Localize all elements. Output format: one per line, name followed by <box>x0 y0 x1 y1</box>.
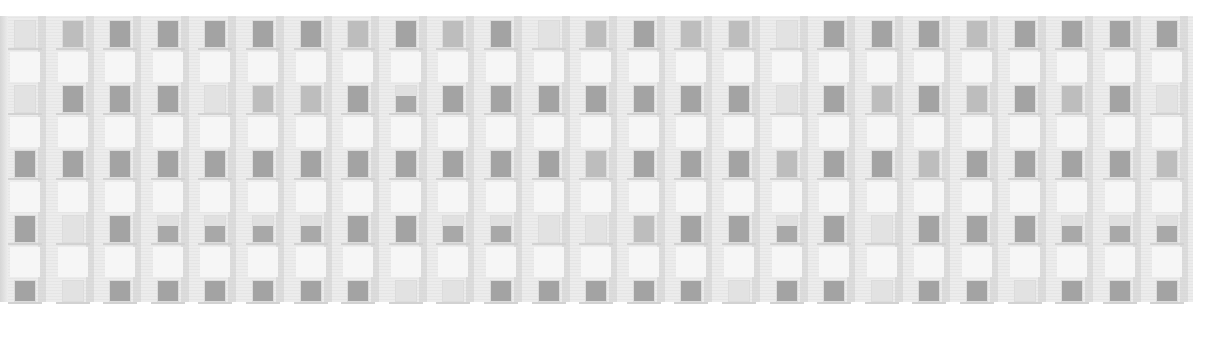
window <box>157 215 179 243</box>
window-sill <box>389 243 423 245</box>
wall-spandrel <box>1057 52 1087 82</box>
window-sill <box>722 48 756 50</box>
window <box>1156 280 1178 302</box>
wall-spandrel <box>629 117 659 147</box>
wall-spandrel <box>914 52 944 82</box>
window-sill <box>865 243 899 245</box>
window <box>1109 150 1131 178</box>
wall-spandrel <box>914 247 944 277</box>
wall-spandrel <box>1057 247 1087 277</box>
window <box>823 150 845 178</box>
window-sill <box>341 302 375 304</box>
window-sill <box>436 243 470 245</box>
window-sill <box>103 178 137 180</box>
window <box>14 20 36 48</box>
window <box>680 20 702 48</box>
window-sill <box>1008 48 1042 50</box>
wall-spandrel <box>962 182 992 212</box>
window-sill <box>56 243 90 245</box>
wall-spandrel <box>105 117 135 147</box>
window <box>1061 85 1083 113</box>
window <box>585 280 607 302</box>
window <box>347 85 369 113</box>
window <box>62 280 84 302</box>
window <box>871 280 893 302</box>
wall-spandrel <box>914 182 944 212</box>
window-sill <box>198 48 232 50</box>
window-sill <box>246 48 280 50</box>
window-sill <box>198 302 232 304</box>
wall-spandrel <box>248 117 278 147</box>
wall-spandrel <box>914 117 944 147</box>
window-sill <box>151 48 185 50</box>
window <box>966 280 988 302</box>
window <box>918 280 940 302</box>
window-sill <box>1055 178 1089 180</box>
window <box>966 215 988 243</box>
window-sill <box>722 113 756 115</box>
window-sill <box>674 178 708 180</box>
window <box>300 150 322 178</box>
window <box>633 280 655 302</box>
window-sill <box>198 178 232 180</box>
wall-spandrel <box>581 117 611 147</box>
window-sill <box>627 178 661 180</box>
window <box>62 20 84 48</box>
window-sill <box>8 48 42 50</box>
window-sill <box>960 302 994 304</box>
window-sill <box>1103 302 1137 304</box>
wall-spandrel <box>676 247 706 277</box>
window-sill <box>1008 302 1042 304</box>
window-sill <box>1103 243 1137 245</box>
window <box>252 20 274 48</box>
wall-spandrel <box>153 117 183 147</box>
window-sill <box>579 302 613 304</box>
window-sill <box>674 243 708 245</box>
window-sill <box>960 48 994 50</box>
window <box>680 85 702 113</box>
window-sill <box>8 302 42 304</box>
wall-spandrel <box>486 182 516 212</box>
window <box>157 150 179 178</box>
window <box>1109 20 1131 48</box>
wall-spandrel <box>534 117 564 147</box>
wall-spandrel <box>1010 52 1040 82</box>
window <box>680 150 702 178</box>
wall-spandrel <box>296 247 326 277</box>
window-sill <box>1055 243 1089 245</box>
wall-spandrel <box>10 182 40 212</box>
window <box>252 280 274 302</box>
window-sill <box>484 178 518 180</box>
wall-spandrel <box>438 182 468 212</box>
window-sill <box>1103 48 1137 50</box>
window <box>395 215 417 243</box>
window <box>252 215 274 243</box>
window <box>157 20 179 48</box>
window-sill <box>1103 178 1137 180</box>
window <box>918 85 940 113</box>
wall-spandrel <box>248 182 278 212</box>
wall-spandrel <box>10 52 40 82</box>
wall-spandrel <box>772 182 802 212</box>
window <box>633 150 655 178</box>
window-sill <box>1150 178 1184 180</box>
window <box>395 280 417 302</box>
window-sill <box>246 302 280 304</box>
building-facade-photo <box>0 16 1193 302</box>
window <box>823 85 845 113</box>
wall-spandrel <box>486 117 516 147</box>
window-sill <box>294 302 328 304</box>
window-sill <box>770 178 804 180</box>
window-sill <box>627 113 661 115</box>
window-sill <box>436 302 470 304</box>
window <box>490 280 512 302</box>
window <box>680 280 702 302</box>
wall-spandrel <box>438 52 468 82</box>
wall-spandrel <box>1152 182 1182 212</box>
window <box>680 215 702 243</box>
window <box>1061 150 1083 178</box>
wall-spandrel <box>724 117 754 147</box>
window-sill <box>341 48 375 50</box>
window-sill <box>151 302 185 304</box>
window <box>633 20 655 48</box>
